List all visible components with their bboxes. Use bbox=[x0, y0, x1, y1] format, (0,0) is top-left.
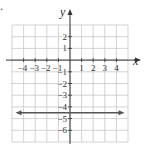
y-tick-label: −3 bbox=[57, 90, 67, 100]
y-tick-label: 2 bbox=[63, 32, 68, 42]
x-tick-label: 2 bbox=[91, 63, 96, 73]
y-tick-label: −5 bbox=[57, 114, 67, 124]
right-arrow-icon bbox=[119, 110, 125, 115]
x-tick-label: −2 bbox=[41, 63, 51, 73]
y-tick-label: 1 bbox=[63, 43, 68, 53]
y-tick-label: −2 bbox=[57, 79, 67, 89]
coordinate-plane: −4−3−2−1123421−1−2−3−4−5−6 x y bbox=[0, 0, 146, 149]
x-tick-label: −3 bbox=[29, 63, 39, 73]
y-tick-label: −1 bbox=[57, 67, 67, 77]
axes bbox=[6, 9, 141, 144]
x-tick-label: −4 bbox=[18, 63, 28, 73]
y-axis-arrow-icon bbox=[68, 9, 73, 15]
x-tick-label: 3 bbox=[103, 63, 108, 73]
y-tick-label: −4 bbox=[57, 102, 67, 112]
x-tick-label: 4 bbox=[114, 63, 119, 73]
x-axis-label: x bbox=[132, 54, 139, 68]
left-arrow-icon bbox=[15, 110, 21, 115]
x-tick-label: 1 bbox=[79, 63, 84, 73]
y-tick-label: −6 bbox=[57, 125, 67, 135]
y-axis-label: y bbox=[59, 5, 66, 19]
